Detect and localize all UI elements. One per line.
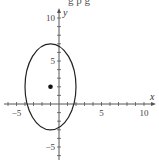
cropped-title-fragment: g p g <box>68 0 91 6</box>
x-axis-arrow-icon <box>151 102 156 106</box>
y-axis-label: y <box>62 7 68 18</box>
ellipse-plot: g p g −5510−5510 x y <box>0 0 159 165</box>
x-axis-label: x <box>149 91 155 102</box>
y-tick-label: −5 <box>45 142 55 152</box>
axes <box>4 8 156 160</box>
center-point <box>48 85 53 90</box>
y-tick-label: 5 <box>51 56 56 66</box>
x-tick-label: 10 <box>140 108 150 118</box>
y-axis-arrow-icon <box>57 8 61 13</box>
y-tick-label: 10 <box>46 13 56 23</box>
tick-labels: −5510−5510 <box>12 13 149 152</box>
x-tick-label: 5 <box>99 108 104 118</box>
x-tick-label: −5 <box>12 108 22 118</box>
